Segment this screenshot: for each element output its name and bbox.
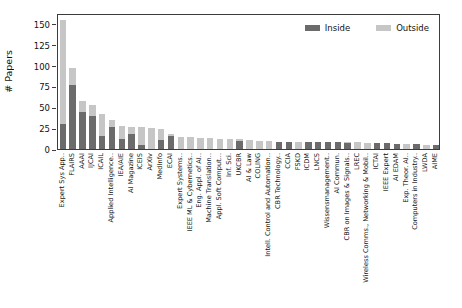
stacked-bar (295, 142, 302, 150)
x-tick-label: Applied Intelligence.. (107, 153, 115, 222)
x-tick-label: FSKD (294, 153, 302, 170)
x-tick-label: Expert Systems.. (176, 153, 184, 209)
stacked-bar (109, 120, 116, 149)
x-tick-label: IJCAI (87, 153, 95, 168)
bar-segment-inside (79, 112, 86, 149)
bar-segment-outside (217, 139, 224, 149)
plot-area: Inside Outside (57, 14, 440, 150)
bar-segment-outside (178, 137, 185, 149)
bar-segment-inside (60, 124, 67, 149)
bar-segment-outside (89, 105, 96, 116)
stacked-bar (256, 141, 263, 149)
stacked-bar (413, 144, 420, 149)
x-tick-label: Machine Translation.. (205, 153, 213, 223)
y-tick-label: 125 (20, 41, 50, 51)
bar-segment-inside (374, 143, 381, 149)
x-tick-label: Wireless Comms., Networking & Mobil.. (362, 153, 370, 283)
y-tick-mark-icon (52, 24, 56, 25)
stacked-bar (187, 137, 194, 149)
bar-segment-outside (138, 127, 145, 145)
x-tick-label: Computers in Industry.. (411, 153, 419, 230)
bar-segment-outside (119, 126, 126, 139)
x-tick-label: Appl. Soft Comput... (215, 153, 223, 219)
stacked-bar (374, 143, 381, 149)
bar-segment-inside (315, 142, 322, 149)
bar-segment-outside (148, 128, 155, 149)
x-tick-label: IEA/AIE (117, 153, 125, 176)
stacked-bar (197, 138, 204, 149)
bar-segment-outside (266, 141, 273, 149)
x-tick-label: AIME (431, 153, 439, 169)
bar-segment-outside (158, 129, 165, 140)
bar-segment-outside (109, 120, 116, 128)
bar-segment-inside (276, 142, 283, 150)
y-tick-label: 150 (20, 20, 50, 30)
y-tick-mark-icon (52, 108, 56, 109)
stacked-bar (207, 138, 214, 149)
legend: Inside Outside (305, 23, 429, 33)
stacked-bar (236, 139, 243, 149)
bar-segment-outside (60, 20, 67, 124)
x-tick-label: Intell. Control and Automation.. (264, 153, 272, 257)
bar-segment-outside (69, 68, 76, 85)
stacked-bar (79, 101, 86, 149)
x-tick-label: IEEE Expert (382, 153, 390, 191)
bar-segment-outside (187, 137, 194, 149)
stacked-bar (423, 145, 430, 149)
bar-segment-inside (325, 142, 332, 149)
bar-segment-inside (119, 139, 126, 149)
bar-segment-outside (423, 145, 430, 149)
stacked-bar (158, 129, 165, 149)
stacked-bar (286, 142, 293, 150)
x-tick-label: ArXiv (146, 153, 154, 170)
bar-segment-inside (335, 142, 342, 149)
x-tick-label: Eng. Appl. of AI.. (195, 153, 203, 208)
stacked-bar (69, 68, 76, 149)
stacked-bar (227, 139, 234, 149)
bar-segment-inside (344, 143, 351, 149)
bar-segment-inside (433, 145, 440, 149)
bar-segment-inside (89, 116, 96, 149)
x-tick-label: AI & Law (245, 153, 253, 182)
bar-segment-inside (413, 144, 420, 149)
x-tick-label: LREC (353, 153, 361, 170)
y-tick-label: 75 (20, 82, 50, 92)
stacked-bar (403, 144, 410, 149)
x-tick-label: AI Commun. (333, 153, 341, 194)
stacked-bar (315, 142, 322, 149)
bar-segment-outside (227, 139, 234, 149)
legend-swatch-outside-icon (376, 25, 391, 31)
bar-segment-inside (99, 136, 106, 149)
stacked-bar (178, 137, 185, 149)
x-tick-label: Inf. Sci. (225, 153, 233, 177)
x-tick-label: Exp. Theor. AI.. (402, 153, 410, 203)
legend-item-inside: Inside (305, 23, 350, 33)
bar-segment-outside (354, 142, 361, 149)
bar-segment-inside (286, 142, 293, 150)
x-tick-label: CCIA (284, 153, 292, 169)
stacked-bar (354, 142, 361, 149)
bar-segment-inside (109, 127, 116, 149)
x-tick-label: IEEE ML & Cybernetics.. (186, 153, 194, 231)
y-tick-mark-icon (52, 45, 56, 46)
stacked-bar (148, 128, 155, 149)
x-tick-label: AAAI (78, 153, 86, 169)
x-tick-label: ICDM (303, 153, 311, 170)
bar-segment-inside (128, 134, 135, 149)
bar-segment-inside (236, 141, 243, 149)
stacked-bar (394, 144, 401, 149)
y-tick-label: 0 (20, 145, 50, 155)
bar-segment-outside (403, 144, 410, 149)
bar-segment-inside (305, 142, 312, 149)
legend-item-outside: Outside (376, 23, 429, 33)
x-tick-label: AI Magazine (127, 153, 135, 193)
bar-segment-outside (246, 140, 253, 149)
stacked-bar (89, 105, 96, 149)
bar-segment-outside (207, 138, 214, 149)
legend-label-outside: Outside (396, 23, 429, 33)
x-tick-label: ICEIS (136, 153, 144, 170)
x-tick-label: FLAIRS (68, 153, 76, 176)
bar-segment-inside (138, 145, 145, 149)
y-tick-mark-icon (52, 66, 56, 67)
y-tick-mark-icon (52, 87, 56, 88)
